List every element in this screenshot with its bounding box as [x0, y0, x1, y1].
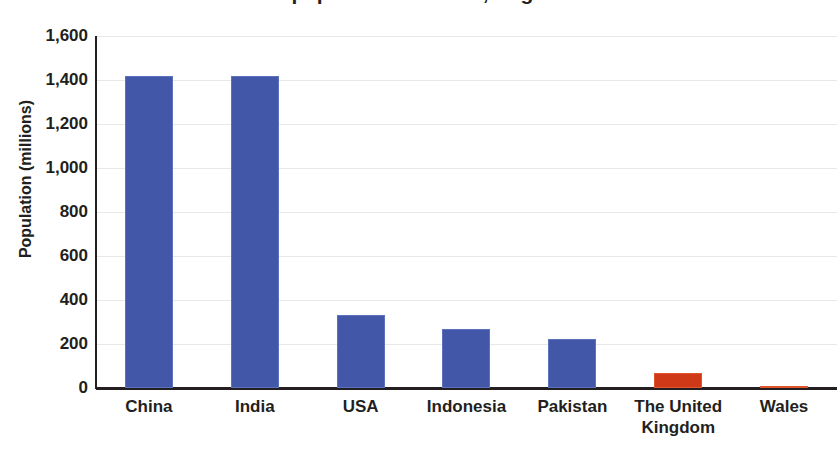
y-axis-tick-label: 1,400 — [2, 70, 88, 90]
bars-layer — [96, 36, 837, 388]
bar-slot — [414, 36, 520, 388]
x-axis-tick-labels: ChinaIndiaUSAIndonesiaPakistanThe United… — [96, 396, 837, 456]
bar-wales[interactable] — [760, 386, 808, 388]
bar-india[interactable] — [231, 76, 279, 388]
y-axis-tick-label: 0 — [2, 378, 88, 398]
bar-slot — [519, 36, 625, 388]
bar-slot — [731, 36, 837, 388]
bar-slot — [308, 36, 414, 388]
bar-slot — [96, 36, 202, 388]
bar-usa[interactable] — [337, 315, 385, 388]
bar-the-united-kingdom[interactable] — [654, 373, 702, 388]
x-axis-tick-label: Wales — [719, 396, 839, 417]
bar-chart: World's most populous countries, England… — [0, 0, 839, 456]
bar-indonesia[interactable] — [442, 329, 490, 388]
y-axis-tick-label: 1,600 — [2, 26, 88, 46]
chart-title: World's most populous countries, England… — [0, 0, 839, 5]
y-axis-tick-label: 1,000 — [2, 158, 88, 178]
y-axis-tick-label: 200 — [2, 334, 88, 354]
y-axis-tick-label: 600 — [2, 246, 88, 266]
bar-china[interactable] — [125, 76, 173, 388]
y-axis-tick-labels: 02004006008001,0001,2001,4001,600 — [0, 0, 88, 456]
y-axis-tick-label: 400 — [2, 290, 88, 310]
y-axis-tick-label: 800 — [2, 202, 88, 222]
bar-pakistan[interactable] — [548, 339, 596, 389]
y-axis-tick-label: 1,200 — [2, 114, 88, 134]
bar-slot — [625, 36, 731, 388]
bar-slot — [202, 36, 308, 388]
